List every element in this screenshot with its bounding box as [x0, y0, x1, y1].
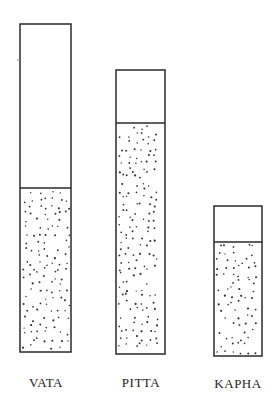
column-pitta	[116, 70, 165, 354]
stipple-fill-kapha	[216, 244, 257, 355]
label-pitta: PITTA	[122, 375, 160, 391]
label-kapha: KAPHA	[214, 376, 261, 392]
container-outline-kapha	[214, 206, 262, 356]
stipple-fill-vata	[22, 191, 70, 350]
stipple-fill-pitta	[118, 125, 159, 347]
label-vata: VATA	[29, 375, 63, 391]
column-vata	[20, 24, 71, 352]
column-kapha	[214, 206, 262, 356]
dosha-diagram	[0, 0, 280, 404]
container-outline-pitta	[116, 70, 165, 354]
